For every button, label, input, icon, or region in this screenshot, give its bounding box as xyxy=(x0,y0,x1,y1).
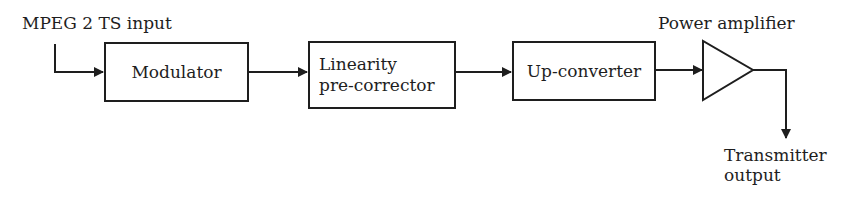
output-label-line1: Transmitter xyxy=(724,145,827,165)
modulator-label: Modulator xyxy=(131,62,221,83)
input-label: MPEG 2 TS input xyxy=(22,13,172,33)
amplifier-triangle-icon xyxy=(703,41,753,100)
linearity-pre-corrector-label: Linearity pre-corrector xyxy=(319,54,435,96)
output-arrow xyxy=(753,70,786,138)
power-amplifier-label: Power amplifier xyxy=(658,13,795,33)
up-converter-block: Up-converter xyxy=(512,41,656,101)
output-label-line2: output xyxy=(724,165,827,185)
linearity-pre-corrector-block: Linearity pre-corrector xyxy=(308,41,456,109)
up-converter-label: Up-converter xyxy=(527,61,641,82)
modulator-block: Modulator xyxy=(104,42,249,102)
linearity-label-line1: Linearity xyxy=(319,54,435,75)
transmitter-output-label: Transmitter output xyxy=(724,145,827,185)
input-arrow xyxy=(55,44,103,72)
linearity-label-line2: pre-corrector xyxy=(319,75,435,96)
